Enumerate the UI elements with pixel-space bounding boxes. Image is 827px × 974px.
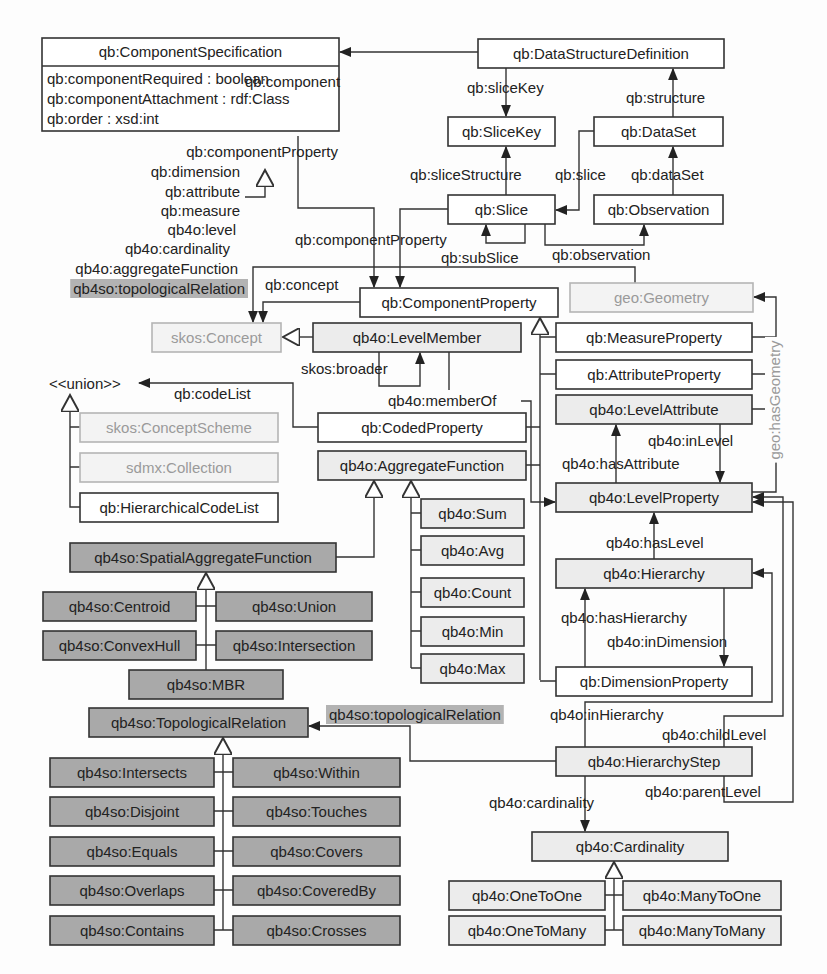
class-hierarchy: qb4o:Hierarchy xyxy=(556,559,752,588)
edge-childlevel xyxy=(724,497,783,747)
edge-label-componentproperty1: qb:componentProperty xyxy=(186,143,338,160)
class-label: qb4o:Avg xyxy=(441,542,504,559)
edge-label-text: qb:dimension xyxy=(151,163,240,180)
edge-label-hasattribute: qb4o:hasAttribute xyxy=(562,455,680,472)
class-manytomany: qb4o:ManyToMany xyxy=(623,916,781,945)
edge-label-text: qb:subSlice xyxy=(441,249,519,266)
edge-label-text: qb:observation xyxy=(552,246,650,263)
class-label: qb4o:Hierarchy xyxy=(603,565,705,582)
class-attributeproperty: qb:AttributeProperty xyxy=(556,360,752,389)
edge-label-measure: qb:measure xyxy=(161,202,240,219)
class-measureproperty: qb:MeasureProperty xyxy=(556,323,752,352)
edge-label-componentproperty2: qb:componentProperty xyxy=(295,231,447,248)
class-label: qb:SliceKey xyxy=(462,123,542,140)
class-label: qb:AttributeProperty xyxy=(587,366,721,383)
edge-label-text: qb:concept xyxy=(265,276,339,293)
class-label: sdmx:Collection xyxy=(126,459,232,476)
class-label: qb:ComponentSpecification xyxy=(99,43,282,60)
edge-label-text: qb4o:aggregateFunction xyxy=(75,260,238,277)
edge-label-hashierarchy: qb4o:hasHierarchy xyxy=(561,609,687,626)
class-label: qb4o:Count xyxy=(434,584,512,601)
edge-label-slicestructure: qb:sliceStructure xyxy=(410,166,522,183)
class-slice: qb:Slice xyxy=(448,195,555,224)
class-crosses: qb4so:Crosses xyxy=(233,916,400,945)
edge-label-slicekey: qb:sliceKey xyxy=(467,79,544,96)
edge-label-text: qb4so:topologicalRelation xyxy=(73,280,245,297)
class-label: qb4o:OneToOne xyxy=(472,887,582,904)
class-label: qb:DataStructureDefinition xyxy=(513,45,689,62)
edge-label-text: <<union>> xyxy=(49,375,121,392)
edge-label-text: skos:broader xyxy=(301,360,388,377)
edge-label-concept: qb:concept xyxy=(265,276,339,293)
edge-label-text: geo:hasGeometry xyxy=(766,340,783,460)
edge-label-codelist: qb:codeList xyxy=(174,385,252,402)
class-componentproperty: qb:ComponentProperty xyxy=(360,288,558,317)
class-label: qb4so:Intersection xyxy=(233,637,356,654)
class-levelproperty: qb4o:LevelProperty xyxy=(556,483,752,512)
edge-label-text: qb:dataSet xyxy=(631,166,704,183)
class-equals: qb4so:Equals xyxy=(50,837,214,866)
class-label: qb4so:CoveredBy xyxy=(257,882,377,899)
class-label: qb4o:ManyToOne xyxy=(643,887,761,904)
class-topologicalrelation: qb4so:TopologicalRelation xyxy=(89,708,308,737)
edge-label-text: qb:sliceStructure xyxy=(410,166,522,183)
class-max: qb4o:Max xyxy=(421,654,524,683)
class-label: qb4so:TopologicalRelation xyxy=(111,714,286,731)
class-overlaps: qb4so:Overlaps xyxy=(50,876,214,905)
edge-spatialagg-agg xyxy=(336,481,374,557)
edge-label-text: qb4o:inHierarchy xyxy=(550,706,664,723)
class-touches: qb4so:Touches xyxy=(233,797,400,826)
class-label: qb4o:LevelAttribute xyxy=(589,401,718,418)
edge-label-text: qb4o:hasHierarchy xyxy=(561,609,687,626)
class-aggregatefunction: qb4o:AggregateFunction xyxy=(318,451,526,480)
edge-label-cardinalityrel: qb4o:cardinality xyxy=(489,794,595,811)
class-union: qb4so:Union xyxy=(216,592,372,621)
class-centroid: qb4so:Centroid xyxy=(43,592,196,621)
edge-label-component: qb:component xyxy=(245,73,341,90)
edge-label-haslevel: qb4o:hasLevel xyxy=(606,534,704,551)
class-dataset: qb:DataSet xyxy=(594,117,723,146)
class-geometry: geo:Geometry xyxy=(570,283,753,312)
class-label: qb4o:Cardinality xyxy=(576,838,685,855)
class-spatialaggregatefunction: qb4so:SpatialAggregateFunction xyxy=(70,543,336,572)
edge-subslice xyxy=(486,224,525,243)
edge-label-slice: qb:slice xyxy=(555,166,606,183)
class-label: qb4so:Equals xyxy=(87,843,178,860)
edge-label-text: qb:sliceKey xyxy=(467,79,544,96)
edge-label-cardinalityprop: qb4o:cardinality xyxy=(125,240,231,257)
class-attribute: qb:componentAttachment : rdf:Class xyxy=(47,90,290,107)
class-concept: skos:Concept xyxy=(152,323,281,352)
class-levelattribute: qb4o:LevelAttribute xyxy=(556,395,752,424)
edge-label-subslice: qb:subSlice xyxy=(441,249,519,266)
class-label: qb4o:AggregateFunction xyxy=(340,457,504,474)
class-disjoint: qb4so:Disjoint xyxy=(50,797,214,826)
class-collection: sdmx:Collection xyxy=(80,453,278,482)
edge-label-level: qb4o:level xyxy=(168,221,236,238)
class-contains: qb4so:Contains xyxy=(50,916,214,945)
class-observation: qb:Observation xyxy=(594,195,723,224)
edge-union xyxy=(70,395,80,507)
edge-label-text: qb:componentProperty xyxy=(295,231,447,248)
edge-concept xyxy=(263,302,360,322)
edge-label-text: qb:component xyxy=(245,73,341,90)
class-label: qb4so:Crosses xyxy=(266,922,366,939)
class-label: skos:ConceptScheme xyxy=(106,419,252,436)
class-label: qb4so:Contains xyxy=(80,922,184,939)
class-label: skos:Concept xyxy=(171,329,263,346)
class-mbr: qb4so:MBR xyxy=(129,670,283,699)
edge-label-text: qb4o:level xyxy=(168,221,236,238)
edge-label-aggregatefunction: qb4o:aggregateFunction xyxy=(75,260,238,277)
edge-topologicalrelation xyxy=(309,726,556,761)
edge-label-inhierarchy: qb4o:inHierarchy xyxy=(550,706,664,723)
edge-label-indimension: qb4o:inDimension xyxy=(607,633,727,650)
class-onetoone: qb4o:OneToOne xyxy=(449,881,605,910)
class-label: qb:MeasureProperty xyxy=(586,329,722,346)
class-label: qb4so:Intersects xyxy=(77,764,187,781)
edge-label-text: qb4so:topologicalRelation xyxy=(329,706,501,723)
class-label: qb4so:MBR xyxy=(167,676,246,693)
class-label: qb4o:Max xyxy=(440,660,506,677)
edge-label-union: <<union>> xyxy=(49,375,121,392)
class-hierarchicalcodelist: qb:HierarchicalCodeList xyxy=(80,493,278,522)
edge-label-childlevel: qb4o:childLevel xyxy=(662,726,766,743)
class-label: qb:CodedProperty xyxy=(361,419,483,436)
